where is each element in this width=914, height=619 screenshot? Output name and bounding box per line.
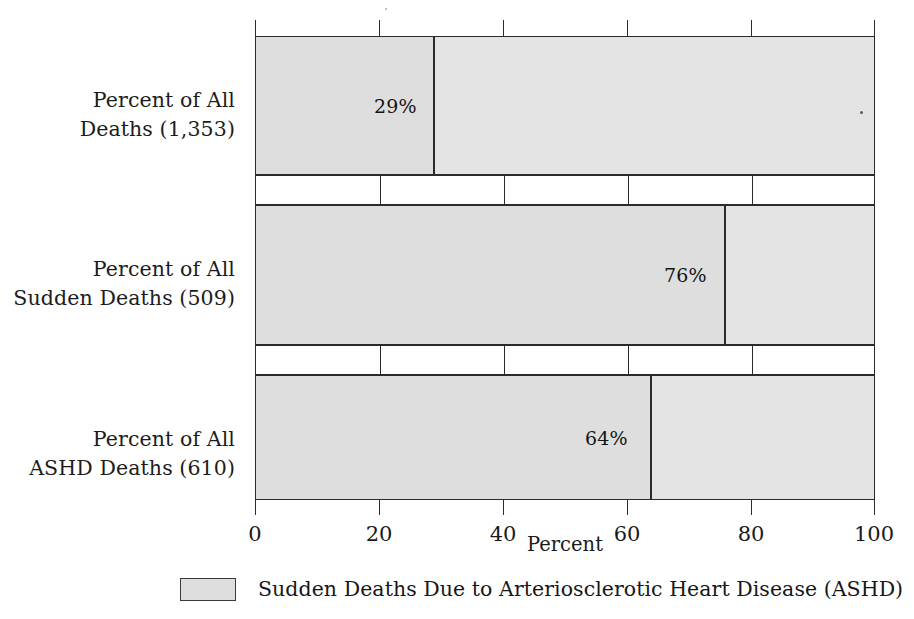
- plot-area: 29% 76% 64%: [255, 36, 875, 500]
- gridline-60: [628, 176, 629, 204]
- bar-segment-ashd: [256, 206, 726, 344]
- tick-bottom-60: [627, 500, 628, 515]
- tick-bottom-40: [503, 500, 504, 515]
- bar-value-label: 29%: [374, 95, 417, 117]
- bar-gap-strip: [255, 175, 875, 205]
- table-row: 29%: [255, 36, 875, 175]
- bar-gap-strip: [255, 345, 875, 375]
- category-label-deaths: Percent of All Deaths (1,353): [0, 86, 235, 144]
- tick-top-60: [627, 20, 628, 36]
- tick-bottom-100: [874, 500, 875, 515]
- tick-top-20: [379, 20, 380, 36]
- legend: Sudden Deaths Due to Arteriosclerotic He…: [180, 577, 903, 601]
- legend-label-ashd: Sudden Deaths Due to Arteriosclerotic He…: [258, 577, 903, 601]
- x-axis-title: Percent: [255, 533, 875, 556]
- legend-swatch-ashd: [180, 578, 236, 601]
- tick-bottom-80: [751, 500, 752, 515]
- gridline-60: [628, 346, 629, 374]
- tick-top-0: [255, 20, 256, 36]
- gridline-40: [504, 346, 505, 374]
- category-label-ashd-deaths: Percent of All ASHD Deaths (610): [0, 425, 235, 483]
- category-label-sudden-deaths: Percent of All Sudden Deaths (509): [0, 255, 235, 313]
- tick-top-100: [874, 20, 875, 36]
- table-row: 76%: [255, 205, 875, 345]
- tick-bottom-20: [379, 500, 380, 515]
- gridline-80: [752, 346, 753, 374]
- scan-speck: [860, 111, 863, 114]
- table-row: 64%: [255, 375, 875, 500]
- bar-value-label: 64%: [585, 427, 628, 449]
- gridline-80: [752, 176, 753, 204]
- bar-chart: Percent of All Deaths (1,353) Percent of…: [0, 0, 914, 619]
- gridline-40: [504, 176, 505, 204]
- bar-value-label: 76%: [664, 264, 707, 286]
- scan-speck: [385, 8, 387, 10]
- gridline-20: [380, 176, 381, 204]
- gridline-20: [380, 346, 381, 374]
- tick-top-40: [503, 20, 504, 36]
- tick-bottom-0: [255, 500, 256, 515]
- tick-top-80: [751, 20, 752, 36]
